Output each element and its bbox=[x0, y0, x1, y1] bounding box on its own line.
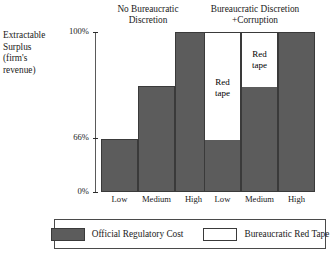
bar-segment-red-tape: Red tape bbox=[242, 33, 277, 87]
bar-panel1-medium[interactable] bbox=[138, 86, 175, 192]
red-tape-label-line-2: tape bbox=[242, 60, 277, 71]
chart-legend: Official Regulatory Cost Bureaucratic Re… bbox=[54, 219, 326, 249]
red-tape-label-line-1: Red bbox=[205, 77, 240, 88]
y-tick-label-0: 0% bbox=[55, 187, 89, 196]
bar-segment-official-cost bbox=[102, 140, 137, 191]
bar-segment-official-cost bbox=[205, 140, 240, 191]
red-tape-label-line-1: Red bbox=[242, 49, 277, 60]
category-label-panel2-medium: Medium bbox=[240, 194, 279, 204]
bar-panel2-medium[interactable]: Red tape bbox=[241, 32, 278, 192]
y-tick-label-66: 66% bbox=[55, 133, 89, 142]
category-label-panel1-medium: Medium bbox=[137, 194, 176, 204]
legend-label-official-regulatory-cost: Official Regulatory Cost bbox=[92, 229, 184, 240]
category-label-panel2-high: High bbox=[278, 194, 315, 204]
y-tick-100 bbox=[93, 32, 98, 33]
bar-panel2-low[interactable]: Red tape bbox=[204, 32, 241, 192]
y-tick-66 bbox=[93, 138, 98, 139]
y-axis-line bbox=[95, 32, 96, 192]
legend-entry-bureaucratic-red-tape: Bureaucratic Red Tape bbox=[203, 228, 329, 241]
bar-segment-official-cost bbox=[279, 33, 314, 191]
red-tape-label-panel2-medium: Red tape bbox=[242, 49, 277, 70]
bar-segment-official-cost bbox=[139, 87, 174, 191]
y-tick-0 bbox=[93, 192, 98, 193]
bar-segment-official-cost bbox=[242, 87, 277, 191]
legend-entry-official-regulatory-cost: Official Regulatory Cost bbox=[51, 228, 184, 241]
chart-figure: No Bureaucratic Discretion Bureaucratic … bbox=[0, 0, 333, 254]
red-tape-label-panel2-low: Red tape bbox=[205, 77, 240, 98]
y-tick-label-100: 100% bbox=[55, 27, 89, 36]
red-tape-label-line-2: tape bbox=[205, 88, 240, 99]
legend-swatch-official-regulatory-cost bbox=[51, 228, 85, 241]
bar-segment-red-tape: Red tape bbox=[205, 33, 240, 140]
plot-area: 100% 66% 0% Low Medium High bbox=[0, 0, 333, 200]
legend-swatch-bureaucratic-red-tape bbox=[203, 228, 237, 241]
legend-label-bureaucratic-red-tape: Bureaucratic Red Tape bbox=[244, 229, 329, 240]
bar-panel1-low[interactable] bbox=[101, 139, 138, 192]
category-label-panel1-low: Low bbox=[101, 194, 138, 204]
bar-panel2-high[interactable] bbox=[278, 32, 315, 192]
category-label-panel2-low: Low bbox=[204, 194, 241, 204]
